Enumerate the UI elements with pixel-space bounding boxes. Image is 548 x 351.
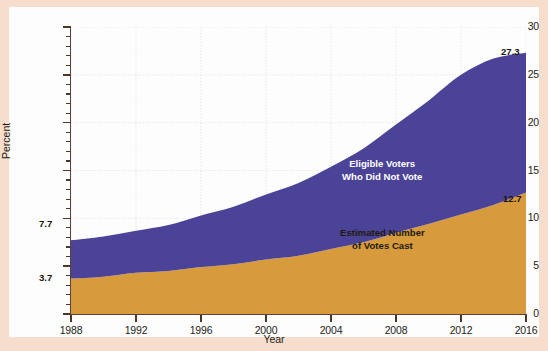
x-tick [200,315,201,322]
y-tick-label: 0 [493,307,539,319]
stacked-area-svg [71,27,526,314]
series-label-votes-cast: Estimated Number of Votes Cast [340,227,425,252]
y-tick-label: 5 [493,259,539,271]
y-tick-minor [66,304,70,305]
y-tick-minor [66,227,70,228]
x-tick [525,315,526,322]
y-tick-minor [66,285,70,286]
x-axis-title: Year [0,333,548,345]
y-tick-minor [66,294,70,295]
y-tick-minor [66,103,70,104]
y-tick-minor [66,179,70,180]
value-label-votes-2016: 12.7 [503,193,522,204]
y-tick-label: 25 [493,68,539,80]
y-tick-minor [66,160,70,161]
x-tick [70,315,71,322]
y-tick-minor [66,65,70,66]
y-tick-minor [66,199,70,200]
value-label-votes-1988: 3.7 [39,272,52,283]
series-label-non-voters: Eligible Voters Who Did Not Vote [342,158,422,183]
y-tick-label: 10 [493,211,539,223]
y-tick-minor [66,189,70,190]
y-tick-major [63,74,70,75]
series-label-votes-cast-line1: Estimated Number [340,227,425,240]
y-tick-major [63,170,70,171]
y-axis-line [70,26,71,315]
y-tick-minor [66,246,70,247]
y-tick-major [63,26,70,27]
y-tick-minor [66,275,70,276]
x-axis-line [70,314,527,315]
series-label-votes-cast-line2: of Votes Cast [340,240,425,253]
y-tick-minor [66,36,70,37]
y-tick-major [63,218,70,219]
chart-figure: 051015202530 198819921996200020042008201… [0,0,548,351]
y-tick-major [63,265,70,266]
y-tick-minor [66,84,70,85]
series-label-non-voters-line1: Eligible Voters [342,158,422,171]
y-tick-minor [66,151,70,152]
y-tick-minor [66,46,70,47]
y-tick-label: 20 [493,116,539,128]
y-tick-major [63,122,70,123]
y-tick-minor [66,208,70,209]
y-tick-minor [66,55,70,56]
x-tick [265,315,266,322]
y-tick-minor [66,132,70,133]
y-tick-minor [66,237,70,238]
y-tick-minor [66,113,70,114]
x-tick [330,315,331,322]
value-label-total-1988: 7.7 [39,218,52,229]
chart-panel: 051015202530 198819921996200020042008201… [9,7,539,337]
series-label-non-voters-line2: Who Did Not Vote [342,171,422,184]
y-tick-minor [66,93,70,94]
x-tick [395,315,396,322]
y-tick-minor [66,141,70,142]
x-tick [460,315,461,322]
y-axis-title: Percent [0,123,12,159]
y-tick-minor [66,256,70,257]
y-tick-label: 15 [493,164,539,176]
plot-area [71,27,526,314]
x-tick [135,315,136,322]
y-tick-major [63,313,70,314]
y-tick-label: 30 [493,20,539,32]
value-label-total-2016: 27.3 [501,46,520,57]
